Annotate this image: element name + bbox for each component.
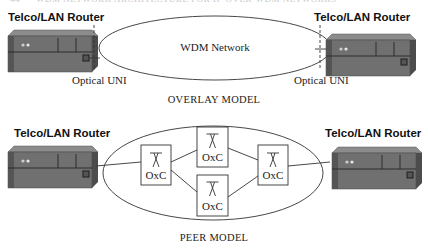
svg-text:OxC: OxC — [263, 169, 284, 181]
peer-model: Telco/LAN Router Telco/LAN Router OxC Ox… — [8, 126, 422, 243]
oxc-node-left: OxC — [141, 145, 171, 185]
network-models-diagram: Telco/LAN Router WDM Network Optical UNI… — [0, 0, 428, 248]
peer-right-router-icon — [332, 147, 422, 189]
oxc-node-right: OxC — [258, 145, 288, 185]
peer-link-top-right — [228, 148, 258, 160]
overlay-model-title: OVERLAY MODEL — [168, 94, 261, 105]
peer-left-router-label: Telco/LAN Router — [14, 127, 111, 139]
svg-text:OxC: OxC — [202, 200, 223, 212]
overlay-left-router-icon — [8, 30, 98, 72]
peer-link-left-top — [171, 150, 197, 162]
peer-link-right-router — [288, 162, 330, 166]
peer-right-router-label: Telco/LAN Router — [325, 127, 422, 139]
overlay-right-router-label: Telco/LAN Router — [314, 11, 411, 23]
overlay-left-uni-label: Optical UNI — [72, 74, 127, 86]
wdm-network-label: WDM Network — [180, 41, 250, 53]
oxc-node-top: OxC — [197, 127, 228, 167]
overlay-left-router-label: Telco/LAN Router — [8, 11, 105, 23]
peer-link-left-bottom — [171, 170, 197, 192]
oxc-node-bottom: OxC — [197, 175, 228, 216]
overlay-right-router-icon — [326, 34, 416, 76]
overlay-model: Telco/LAN Router WDM Network Optical UNI… — [8, 11, 416, 105]
svg-text:OxC: OxC — [146, 169, 167, 181]
peer-link-bottom-right — [228, 176, 258, 197]
svg-text:OxC: OxC — [202, 151, 223, 163]
peer-link-router-left — [96, 162, 141, 166]
peer-left-router-icon — [8, 146, 98, 188]
peer-model-title: PEER MODEL — [180, 232, 249, 243]
